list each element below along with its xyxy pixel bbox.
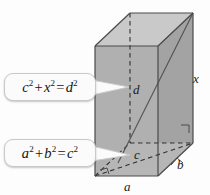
edge-label-depth-b: b [177,158,184,171]
callout-a-b-c[interactable]: a2+b2=c2 [4,139,96,167]
edge-label-height-x: x [193,72,199,85]
callout-c-x-d[interactable]: c2+x2=d2 [4,73,96,101]
figure-canvas: c2+x2=d2 a2+b2=c2 x b a c d [0,0,210,195]
edge-label-space-diagonal-d: d [133,83,140,96]
edge-label-base-diagonal-c: c [134,148,140,161]
callout-c-x-d-text: c2+x2=d2 [22,79,78,96]
callout-a-b-c-text: a2+b2=c2 [22,145,78,162]
edge-label-width-a: a [124,180,131,193]
